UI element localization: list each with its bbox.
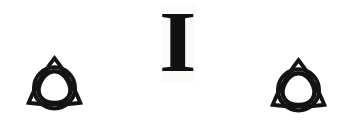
letter-i: I bbox=[159, 9, 196, 76]
triquetra-icon-right bbox=[261, 53, 336, 114]
triquetra-icon-left bbox=[17, 51, 92, 112]
letter-patch: I bbox=[161, 4, 195, 82]
image-canvas: I bbox=[0, 0, 344, 124]
